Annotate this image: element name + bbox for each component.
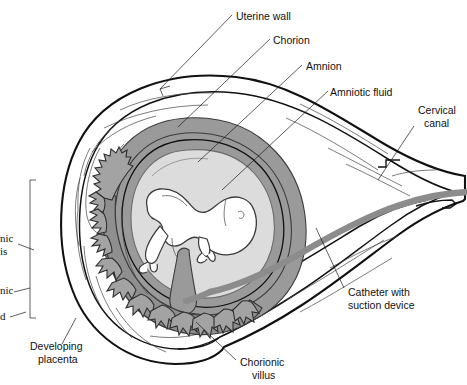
label-catheter-line1: Catheter with	[348, 286, 410, 298]
leader-cropped-3	[10, 312, 26, 317]
label-catheter-line2: suction device	[348, 299, 415, 311]
leader-uterine-wall	[160, 15, 232, 89]
label-chorionic-villus-line1: Chorionic	[240, 356, 284, 368]
label-chorionic-villus-line2: villus	[252, 369, 275, 381]
cropped-label-1-line1: nic	[0, 232, 14, 244]
leader-chorion	[178, 39, 270, 127]
label-chorionic-villus: Chorionic villus	[240, 356, 287, 381]
label-uterine-wall: Uterine wall	[236, 10, 291, 22]
label-cervical-canal-line2: canal	[424, 117, 449, 129]
anatomical-figure: Uterine wall Chorion Amnion Amniotic flu…	[0, 0, 467, 385]
label-developing-placenta-line2: placenta	[38, 353, 78, 365]
label-cervical-canal: Cervical canal	[418, 104, 459, 129]
label-amnion: Amnion	[306, 60, 342, 72]
leader-cropped-1	[18, 244, 34, 250]
label-amniotic-fluid: Amniotic fluid	[330, 86, 393, 98]
cropped-label-3: d	[0, 310, 6, 322]
cropped-label-2: nic	[0, 284, 14, 296]
label-developing-placenta-line1: Developing	[30, 340, 83, 352]
label-cervical-canal-line1: Cervical	[418, 104, 456, 116]
cropped-label-1: nic is	[0, 232, 16, 257]
cropped-label-1-line2: is	[0, 245, 7, 257]
label-catheter: Catheter with suction device	[348, 286, 415, 311]
label-developing-placenta: Developing placenta	[30, 340, 85, 365]
label-chorion: Chorion	[273, 34, 310, 46]
leader-cropped-2	[14, 288, 30, 292]
